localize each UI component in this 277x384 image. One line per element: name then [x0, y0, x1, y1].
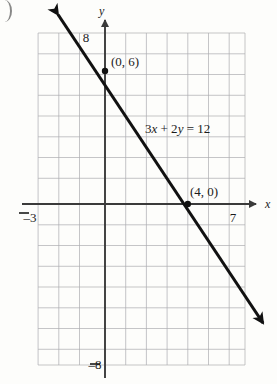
- point-marker-y-intercept: [102, 68, 108, 74]
- y-axis-max-label: 8: [83, 30, 90, 45]
- grid-lines: [38, 33, 245, 365]
- x-axis-max-label: 7: [230, 210, 237, 225]
- point-marker-x-intercept: [185, 201, 191, 207]
- y-axis-min-label: –8: [88, 357, 102, 372]
- x-axis-min-label: –3: [23, 210, 37, 225]
- y-intercept-label: (0, 6): [111, 54, 139, 69]
- x-axis-name-label: x: [264, 197, 271, 211]
- equation-right-side: = 12: [183, 121, 210, 136]
- axis-ticks: [19, 213, 100, 364]
- graph-figure: y x 8 –8 –3 7 (0, 6) (4, 0) 3x + 2y = 12: [0, 0, 277, 384]
- equation-line: [58, 15, 263, 324]
- coordinate-plane: y x 8 –8 –3 7 (0, 6) (4, 0) 3x + 2y = 12: [0, 0, 277, 384]
- axes: [22, 20, 256, 378]
- x-intercept-label: (4, 0): [190, 184, 218, 199]
- y-axis-name-label: y: [98, 4, 105, 18]
- equation-label: 3x + 2y = 12: [145, 121, 210, 136]
- equation-operator-plus: + 2: [157, 121, 177, 136]
